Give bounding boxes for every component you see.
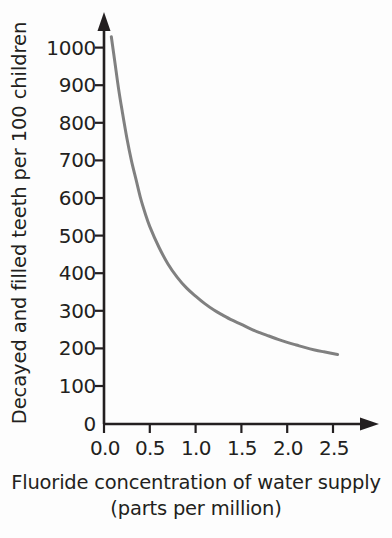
y-tick-label-800: 800 xyxy=(59,113,96,133)
y-axis xyxy=(98,12,111,424)
data-series-line xyxy=(111,37,337,355)
x-tick-marks xyxy=(104,424,333,433)
x-tick-labels: 0.0 0.5 1.0 1.5 2.0 2.5 xyxy=(0,0,392,40)
y-tick-label-300: 300 xyxy=(59,301,96,321)
x-axis-title-line-1: Fluoride concentration of water supply xyxy=(0,470,392,496)
x-tick-label-1-5: 1.5 xyxy=(227,438,257,458)
y-tick-label-1000: 1000 xyxy=(46,38,96,58)
x-tick-label-0-5: 0.5 xyxy=(135,438,165,458)
y-tick-label-900: 900 xyxy=(59,75,96,95)
chart-figure: Decayed and filled teeth per 100 childre… xyxy=(0,0,392,538)
x-axis-title: Fluoride concentration of water supply (… xyxy=(0,470,392,522)
y-tick-label-200: 200 xyxy=(59,338,96,358)
x-tick-label-2-5: 2.5 xyxy=(319,438,349,458)
y-tick-label-700: 700 xyxy=(59,150,96,170)
x-axis-title-line-2: (parts per million) xyxy=(0,496,392,522)
y-tick-label-500: 500 xyxy=(59,226,96,246)
y-tick-labels: 1000 900 800 700 600 500 400 300 200 100… xyxy=(30,0,96,460)
x-axis-arrow-icon xyxy=(360,418,379,431)
y-tick-label-600: 600 xyxy=(59,188,96,208)
x-tick-label-0-0: 0.0 xyxy=(90,438,120,458)
x-tick-label-1-0: 1.0 xyxy=(181,438,211,458)
y-tick-label-100: 100 xyxy=(59,376,96,396)
x-tick-label-2-0: 2.0 xyxy=(273,438,303,458)
y-tick-marks xyxy=(95,48,104,386)
y-tick-label-400: 400 xyxy=(59,263,96,283)
y-tick-label-0: 0 xyxy=(84,414,96,434)
